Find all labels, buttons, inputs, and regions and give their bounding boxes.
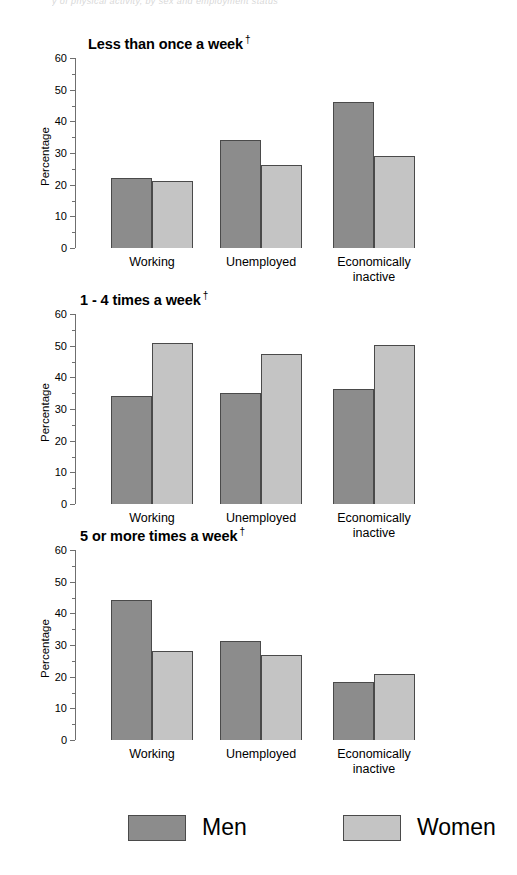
y-tick-label: 0 <box>61 734 67 746</box>
legend-swatch-women <box>343 815 401 841</box>
x-axis-category-label: Working <box>89 255 215 270</box>
y-axis-line <box>75 314 76 504</box>
bar-group: Unemployed <box>220 58 302 248</box>
y-tick-minor <box>72 169 75 170</box>
x-axis-category-label: Working <box>89 747 215 762</box>
chart-title-dagger: † <box>245 34 250 45</box>
y-tick-minor <box>72 393 75 394</box>
y-tick-minor <box>72 330 75 331</box>
bar-men-economically <box>333 102 374 248</box>
bar-women-unemployed <box>261 354 302 504</box>
plot-area-3: 0102030405060WorkingUnemployedEconomical… <box>75 550 473 740</box>
y-tick-major <box>70 677 75 678</box>
chart-title-text: 5 or more times a week <box>80 528 237 544</box>
y-tick-label: 20 <box>55 179 67 191</box>
bar-women-working <box>152 651 193 740</box>
cut-off-figure-caption: y of physical activity, by sex and emplo… <box>52 0 472 8</box>
y-tick-minor <box>72 362 75 363</box>
y-tick-label: 30 <box>55 147 67 159</box>
y-tick-major <box>70 185 75 186</box>
y-tick-label: 0 <box>61 242 67 254</box>
bar-men-economically <box>333 682 374 740</box>
y-tick-minor <box>72 106 75 107</box>
y-tick-minor <box>72 74 75 75</box>
chart-title-3: 5 or more times a week† <box>80 526 245 544</box>
y-tick-major <box>70 58 75 59</box>
bar-group: Economically inactive <box>333 314 415 504</box>
bar-women-working <box>152 343 193 504</box>
y-tick-label: 20 <box>55 671 67 683</box>
y-tick-major <box>70 409 75 410</box>
y-tick-minor <box>72 488 75 489</box>
chart-title-2: 1 - 4 times a week† <box>80 290 208 308</box>
y-tick-label: 20 <box>55 435 67 447</box>
bar-women-working <box>152 181 193 248</box>
y-tick-minor <box>72 661 75 662</box>
y-tick-major <box>70 121 75 122</box>
legend-label-women: Women <box>417 814 496 841</box>
y-tick-major <box>70 550 75 551</box>
y-tick-major <box>70 472 75 473</box>
bar-group: Economically inactive <box>333 550 415 740</box>
y-tick-major <box>70 90 75 91</box>
y-axis-line <box>75 58 76 248</box>
x-axis-category-label: Unemployed <box>198 747 324 762</box>
y-tick-minor <box>72 566 75 567</box>
x-axis-category-label: Unemployed <box>198 255 324 270</box>
y-tick-label: 10 <box>55 702 67 714</box>
y-tick-major <box>70 708 75 709</box>
bar-group: Working <box>111 550 193 740</box>
x-axis-category-label: Economically inactive <box>311 747 437 777</box>
y-tick-minor <box>72 693 75 694</box>
y-tick-label: 10 <box>55 210 67 222</box>
legend-label-men: Men <box>202 814 247 841</box>
y-tick-major <box>70 441 75 442</box>
y-tick-major <box>70 740 75 741</box>
bar-group: Working <box>111 58 193 248</box>
chart-title-1: Less than once a week† <box>88 34 251 52</box>
y-tick-major <box>70 216 75 217</box>
y-tick-minor <box>72 457 75 458</box>
y-tick-label: 50 <box>55 340 67 352</box>
y-axis-line <box>75 550 76 740</box>
bar-men-working <box>111 178 152 248</box>
chart-title-dagger: † <box>239 526 244 537</box>
y-tick-minor <box>72 425 75 426</box>
y-tick-major <box>70 645 75 646</box>
y-tick-minor <box>72 629 75 630</box>
y-tick-minor <box>72 724 75 725</box>
bar-women-economically <box>374 156 415 248</box>
legend-item-men[interactable]: Men <box>128 814 247 841</box>
y-tick-label: 50 <box>55 84 67 96</box>
y-tick-minor <box>72 137 75 138</box>
y-tick-minor <box>72 598 75 599</box>
bar-group: Unemployed <box>220 314 302 504</box>
bar-men-economically <box>333 389 374 504</box>
bar-group: Economically inactive <box>333 58 415 248</box>
legend-swatch-men <box>128 815 186 841</box>
y-tick-label: 40 <box>55 115 67 127</box>
y-tick-major <box>70 314 75 315</box>
bar-women-unemployed <box>261 655 302 741</box>
y-tick-label: 0 <box>61 498 67 510</box>
y-tick-label: 50 <box>55 576 67 588</box>
y-tick-label: 60 <box>55 52 67 64</box>
y-tick-major <box>70 153 75 154</box>
y-tick-major <box>70 377 75 378</box>
x-axis-category-label: Working <box>89 511 215 526</box>
legend-item-women[interactable]: Women <box>343 814 496 841</box>
chart-title-dagger: † <box>203 290 208 301</box>
bar-men-unemployed <box>220 140 261 248</box>
y-tick-label: 30 <box>55 403 67 415</box>
y-tick-label: 60 <box>55 544 67 556</box>
chart-title-text: Less than once a week <box>88 36 243 52</box>
bar-women-unemployed <box>261 165 302 248</box>
bar-men-unemployed <box>220 641 261 740</box>
bar-women-economically <box>374 674 415 741</box>
bar-women-economically <box>374 345 415 504</box>
y-tick-label: 40 <box>55 371 67 383</box>
y-tick-label: 60 <box>55 308 67 320</box>
y-tick-major <box>70 248 75 249</box>
y-tick-major <box>70 613 75 614</box>
y-axis-label-3: Percentage <box>39 619 51 678</box>
